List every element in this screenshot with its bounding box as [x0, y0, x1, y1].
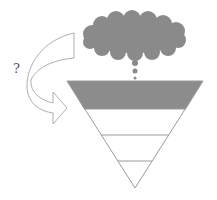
curved-arrow-icon: [27, 33, 74, 124]
funnel-diagram: [67, 81, 203, 188]
thought-cloud-icon: [83, 10, 186, 61]
thought-dots-icon: [132, 60, 138, 80]
funnel-top-band: [67, 81, 203, 109]
diagram-canvas: [0, 0, 217, 200]
question-mark-label: ?: [13, 61, 20, 76]
